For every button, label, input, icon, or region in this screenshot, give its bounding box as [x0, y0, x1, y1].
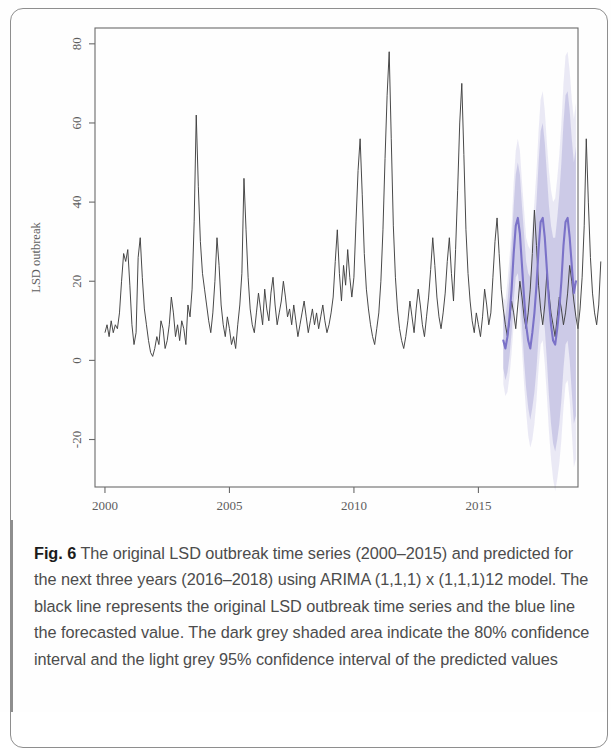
svg-text:2000: 2000 — [92, 498, 118, 513]
caption-side-rule — [11, 520, 13, 712]
svg-text:2005: 2005 — [216, 498, 242, 513]
svg-text:80: 80 — [69, 37, 84, 50]
chart-plot-area: -200204060802000200520102015TimeLSD outb… — [0, 0, 611, 516]
svg-text:20: 20 — [69, 275, 84, 288]
svg-text:2015: 2015 — [465, 498, 491, 513]
svg-text:-20: -20 — [69, 431, 84, 448]
svg-text:40: 40 — [69, 196, 84, 209]
chart-tick-labels: -200204060802000200520102015TimeLSD outb… — [29, 37, 491, 516]
svg-text:0: 0 — [69, 357, 84, 364]
svg-text:LSD outbreak: LSD outbreak — [29, 222, 43, 293]
figure-label: Fig. 6 — [34, 544, 76, 562]
figure-caption-text: The original LSD outbreak time series (2… — [34, 544, 589, 668]
svg-text:60: 60 — [69, 116, 84, 129]
lsd-outbreak-forecast-chart: -200204060802000200520102015TimeLSD outb… — [0, 0, 611, 516]
svg-text:2010: 2010 — [341, 498, 367, 513]
chart-axes — [89, 28, 578, 493]
figure-caption: Fig. 6 The original LSD outbreak time se… — [34, 540, 590, 672]
